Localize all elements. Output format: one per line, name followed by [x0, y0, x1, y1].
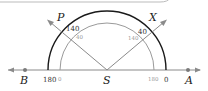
outer-scale-40: 40: [138, 28, 147, 36]
label-b: B: [19, 74, 28, 87]
arrow-right-icon: [195, 68, 201, 73]
inner-scale-140: 140: [128, 35, 139, 41]
label-x: X: [148, 11, 158, 24]
label-s: S: [103, 74, 111, 87]
point-a-dot: [186, 68, 190, 72]
protractor-diagram: P X S A B 180 0 140 40 0 180 40 140: [0, 0, 208, 91]
inner-scale-0: 0: [58, 76, 62, 82]
outer-scale-140: 140: [66, 25, 79, 33]
label-p: P: [56, 11, 65, 24]
label-a: A: [184, 74, 193, 87]
ray-sx: [107, 22, 164, 70]
outer-scale-180: 180: [43, 76, 56, 84]
point-b-dot: [23, 68, 27, 72]
inner-scale-180: 180: [148, 76, 159, 82]
arrow-left-icon: [8, 68, 14, 73]
outer-scale-0: 0: [164, 76, 168, 84]
top-border: [0, 0, 170, 2]
inner-scale-40: 40: [76, 34, 83, 40]
